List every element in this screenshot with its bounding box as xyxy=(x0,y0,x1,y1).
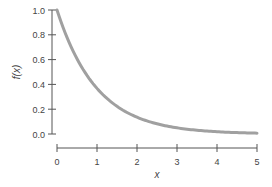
y-tick-label: 0.8 xyxy=(32,30,45,40)
y-tick-label: 0.4 xyxy=(32,80,45,90)
y-tick-label: 1.0 xyxy=(32,6,45,16)
exponential-decay-chart: 0.00.20.40.60.81.0 012345 f(x) x xyxy=(0,0,272,187)
y-tick-label: 0.2 xyxy=(32,105,45,115)
x-axis-label: x xyxy=(154,169,161,180)
x-tick-label: 2 xyxy=(134,157,139,167)
y-tick-label: 0.6 xyxy=(32,55,45,65)
x-tick-label: 0 xyxy=(54,157,59,167)
x-tick-label: 4 xyxy=(214,157,219,167)
x-tick-label: 5 xyxy=(254,157,259,167)
y-axis-label: f(x) xyxy=(11,65,22,79)
density-curve xyxy=(57,10,257,133)
x-tick-label: 3 xyxy=(174,157,179,167)
x-axis: 012345 xyxy=(54,144,259,167)
x-tick-label: 1 xyxy=(94,157,99,167)
y-tick-label: 0.0 xyxy=(32,130,45,140)
y-axis: 0.00.20.40.60.81.0 xyxy=(32,6,56,140)
